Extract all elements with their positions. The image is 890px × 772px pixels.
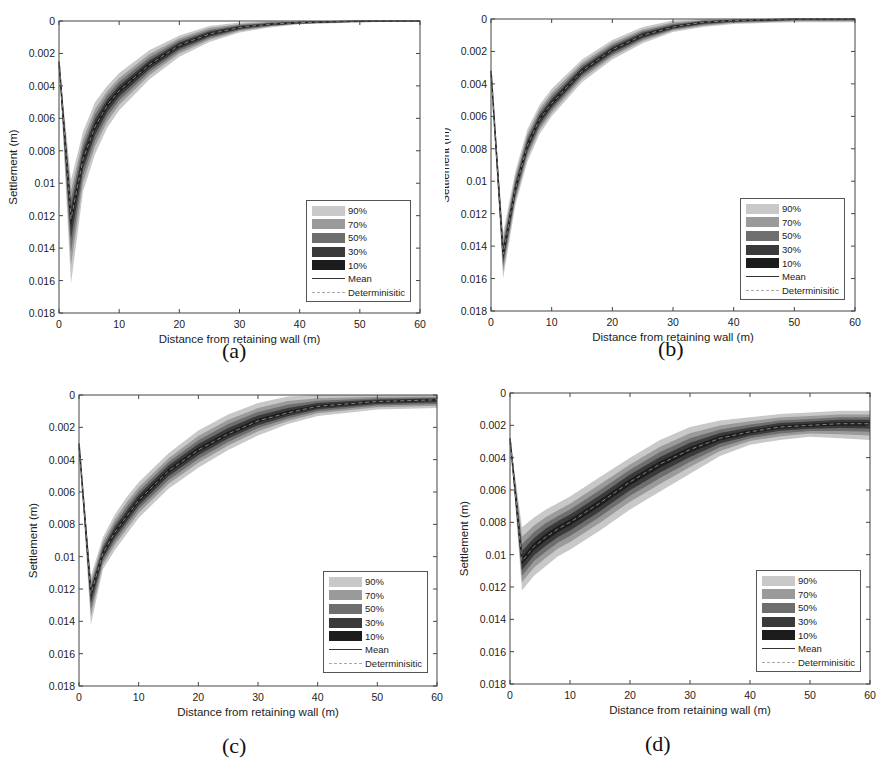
solid-line-icon xyxy=(329,649,362,650)
legend-item: Determinisitic xyxy=(312,286,405,300)
svg-text:0.006: 0.006 xyxy=(461,110,487,122)
legend-swatch xyxy=(746,245,779,255)
svg-text:0.004: 0.004 xyxy=(29,80,55,92)
svg-text:40: 40 xyxy=(312,691,324,703)
legend-item: 70% xyxy=(762,588,855,602)
subplot-c: 010203040506000.0020.0040.0060.0080.010.… xyxy=(0,386,445,772)
legend-label: Mean xyxy=(782,271,806,282)
legend-item: 50% xyxy=(329,602,422,616)
y-axis-label: Settlement (m) xyxy=(27,503,39,579)
legend-item: 90% xyxy=(312,204,405,218)
svg-text:0.014: 0.014 xyxy=(29,242,55,254)
svg-text:0: 0 xyxy=(500,387,506,399)
legend-item: 50% xyxy=(762,601,855,615)
svg-text:0.012: 0.012 xyxy=(461,208,487,220)
legend-swatch xyxy=(762,603,795,613)
solid-line-icon xyxy=(312,278,345,279)
legend-swatch xyxy=(312,219,345,229)
svg-text:0: 0 xyxy=(481,13,487,25)
svg-text:0.014: 0.014 xyxy=(49,615,75,627)
svg-text:30: 30 xyxy=(684,689,696,701)
x-axis-label: Distance from retaining wall (m) xyxy=(177,706,339,718)
dashed-line-icon xyxy=(746,290,779,291)
svg-text:0.018: 0.018 xyxy=(49,680,75,692)
legend-label: 50% xyxy=(798,602,817,613)
svg-text:0.002: 0.002 xyxy=(461,45,487,57)
legend-swatch xyxy=(762,589,795,599)
legend-swatch xyxy=(762,576,795,586)
svg-text:10: 10 xyxy=(564,689,576,701)
legend-swatch xyxy=(329,577,362,587)
legend-label: 90% xyxy=(348,205,367,216)
svg-text:20: 20 xyxy=(606,316,618,328)
svg-text:0: 0 xyxy=(49,15,55,27)
legend-swatch xyxy=(746,217,779,227)
dashed-line-icon xyxy=(329,663,362,664)
legend-label: 30% xyxy=(348,246,367,257)
legend-label: Mean xyxy=(365,644,389,655)
legend-label: 10% xyxy=(798,630,817,641)
legend-label: 70% xyxy=(798,589,817,600)
legend-swatch xyxy=(312,247,345,257)
caption-b: (b) xyxy=(658,336,684,362)
legend-item: 90% xyxy=(746,202,839,216)
svg-text:40: 40 xyxy=(744,689,756,701)
svg-text:0: 0 xyxy=(507,689,513,701)
legend-label: 50% xyxy=(365,603,384,614)
svg-text:0.01: 0.01 xyxy=(55,551,76,563)
solid-line-icon xyxy=(762,648,795,649)
legend-swatch xyxy=(746,258,779,268)
y-axis-label: Settlement (m) xyxy=(458,501,470,577)
y-axis-label: Settlement (m) xyxy=(7,129,19,205)
legend-label: Determinisitic xyxy=(798,657,855,668)
legend-swatch xyxy=(329,590,362,600)
legend-item: Determinisitic xyxy=(762,656,855,670)
legend-item: 70% xyxy=(312,218,405,232)
svg-text:0: 0 xyxy=(56,318,62,330)
legend-item: 90% xyxy=(762,574,855,588)
legend-label: 90% xyxy=(365,576,384,587)
svg-text:0.002: 0.002 xyxy=(49,421,75,433)
svg-text:0.012: 0.012 xyxy=(49,583,75,595)
x-axis-label: Distance from retaining wall (m) xyxy=(609,704,771,716)
legend-label: Mean xyxy=(348,273,372,284)
svg-text:0.004: 0.004 xyxy=(461,78,487,90)
plot-area: 010203040506000.0020.0040.0060.0080.010.… xyxy=(0,0,445,386)
svg-text:0: 0 xyxy=(488,316,494,328)
legend-swatch xyxy=(762,630,795,640)
svg-text:0.016: 0.016 xyxy=(29,275,55,287)
legend-swatch xyxy=(762,617,795,627)
legend-item: 50% xyxy=(746,229,839,243)
mean-line xyxy=(59,21,420,219)
subplot-b: 010203040506000.0020.0040.0060.0080.010.… xyxy=(445,0,890,386)
legend-item: 30% xyxy=(329,616,422,630)
svg-text:0.002: 0.002 xyxy=(29,47,55,59)
legend: 90%70%50%30%10%MeanDeterminisitic xyxy=(323,571,428,673)
y-axis-label: Settlement (m) xyxy=(445,127,451,203)
dashed-line-icon xyxy=(762,662,795,663)
legend-item: 90% xyxy=(329,575,422,589)
svg-text:0.004: 0.004 xyxy=(49,454,75,466)
legend-label: 10% xyxy=(348,260,367,271)
legend-item: 30% xyxy=(312,245,405,259)
solid-line-icon xyxy=(746,276,779,277)
legend-label: 90% xyxy=(782,203,801,214)
svg-text:60: 60 xyxy=(414,318,426,330)
svg-text:50: 50 xyxy=(354,318,366,330)
legend-swatch xyxy=(312,260,345,270)
svg-text:60: 60 xyxy=(431,691,443,703)
svg-text:10: 10 xyxy=(113,318,125,330)
svg-text:20: 20 xyxy=(192,691,204,703)
svg-text:0.006: 0.006 xyxy=(29,112,55,124)
dashed-line-icon xyxy=(312,292,345,293)
svg-text:0.018: 0.018 xyxy=(480,678,506,690)
legend-item: 10% xyxy=(329,629,422,643)
svg-text:0.008: 0.008 xyxy=(29,145,55,157)
legend-label: Mean xyxy=(798,643,822,654)
caption-c: (c) xyxy=(222,733,246,759)
svg-text:0.014: 0.014 xyxy=(480,613,506,625)
legend-item: Determinisitic xyxy=(329,657,422,671)
svg-text:30: 30 xyxy=(234,318,246,330)
svg-text:40: 40 xyxy=(294,318,306,330)
legend-label: Determinisitic xyxy=(348,287,405,298)
